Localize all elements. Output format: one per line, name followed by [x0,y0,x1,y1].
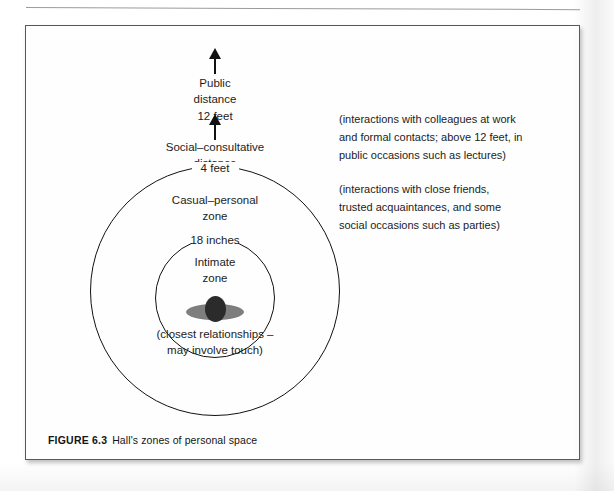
scanned-page: Public distance 12 feet Social–consultat… [0,0,614,491]
social-note-line-2: trusted acquaintances, and some [339,199,554,217]
figure-canvas: Public distance 12 feet Social–consultat… [26,26,579,459]
intimate-zone-line-1: Intimate [140,254,290,270]
public-note-line-2: and formal contacts; above 12 feet, in [339,129,554,147]
intimate-note-line-2: may involve touch) [130,342,300,358]
figure-frame: Public distance 12 feet Social–consultat… [25,25,580,460]
label-inner-boundary-18-inches: 18 inches [165,232,265,248]
social-note-line-1: (interactions with close friends, [339,181,554,199]
arrow-up-icon-social [208,114,222,140]
intimate-zone-line-2: zone [140,270,290,286]
figure-caption-text: Hall's zones of personal space [112,434,257,446]
social-line-1: Social–consultative [115,139,315,155]
public-note-line-1: (interactions with colleagues at work [339,111,554,129]
public-line-1: Public [115,75,315,91]
casual-zone-line-2: zone [115,208,315,224]
label-casual-personal-zone: Casual–personal zone [115,192,315,225]
note-public-distance: (interactions with colleagues at work an… [339,111,554,164]
figure-caption: FIGURE 6.3Hall's zones of personal space [48,434,257,446]
intimate-note-line-1: (closest relationships – [130,326,300,342]
social-note-line-3: social occasions such as parties) [339,217,554,235]
arrow-shaft [214,122,216,140]
person-head-icon [205,296,226,322]
note-social-distance: (interactions with close friends, truste… [339,181,554,234]
figure-caption-number: FIGURE 6.3 [48,434,107,446]
label-intimate-zone-note: (closest relationships – may involve tou… [130,326,300,359]
casual-zone-line-1: Casual–personal [115,192,315,208]
public-note-line-3: public occasions such as lectures) [339,147,554,165]
scan-shadow-bottom [0,463,614,491]
page-top-rule [26,7,580,10]
arrow-shaft [214,56,216,74]
arrow-up-icon-public [208,48,222,74]
label-intimate-zone: Intimate zone [140,254,290,287]
scan-shadow-right [574,0,614,491]
label-outer-boundary-4-feet: 4 feet [165,160,265,176]
public-line-2: distance [115,91,315,107]
